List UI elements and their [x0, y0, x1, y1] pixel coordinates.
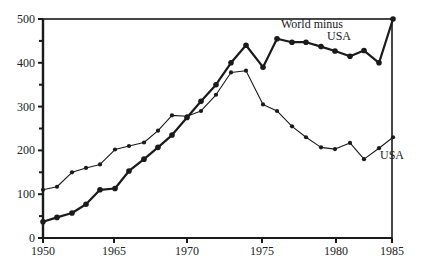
- usa-marker: [348, 141, 352, 145]
- usa-marker: [362, 157, 366, 161]
- line-chart: 0100200300400500195019651970197519801985…: [0, 0, 432, 267]
- world-minus-usa-marker: [361, 48, 367, 54]
- world-minus-usa-marker: [274, 36, 280, 42]
- usa-marker: [70, 170, 74, 174]
- world-minus-usa-marker: [318, 44, 324, 50]
- usa-marker: [170, 113, 174, 117]
- x-tick-label: 1985: [380, 244, 404, 258]
- x-tick-label: 1970: [175, 244, 199, 258]
- world-minus-usa-marker: [213, 82, 219, 88]
- usa-marker: [333, 147, 337, 151]
- usa-marker: [319, 145, 323, 149]
- y-tick-label: 300: [17, 100, 35, 114]
- world-minus-usa-marker: [112, 186, 118, 192]
- usa-label: USA: [380, 148, 404, 162]
- usa-marker: [391, 135, 395, 139]
- x-tick-label: 1965: [102, 244, 126, 258]
- world-minus-usa-marker: [376, 60, 382, 66]
- usa-marker: [113, 147, 117, 151]
- usa-marker: [84, 166, 88, 170]
- usa-marker: [290, 124, 294, 128]
- x-tick-label: 1950: [31, 244, 55, 258]
- y-tick-label: 100: [17, 187, 35, 201]
- world-minus-usa-marker: [141, 156, 147, 162]
- usa-line: [43, 71, 393, 190]
- y-tick-label: 500: [17, 12, 35, 26]
- y-tick-label: 0: [29, 231, 35, 245]
- world-minus-usa-marker: [40, 219, 46, 225]
- axes: 0100200300400500195019651970197519801985: [17, 12, 404, 258]
- usa-marker: [304, 135, 308, 139]
- world-minus-usa-line: [43, 19, 393, 222]
- y-tick-label: 200: [17, 143, 35, 157]
- usa-marker: [156, 129, 160, 133]
- usa-marker: [214, 93, 218, 97]
- world-minus-usa-marker: [347, 53, 353, 59]
- world-minus-usa-marker: [54, 215, 60, 221]
- world-minus-usa-marker: [83, 201, 89, 207]
- world-minus-usa-marker: [69, 210, 75, 216]
- world-minus-usa-marker: [332, 48, 338, 54]
- world-minus-usa-label-line2: USA: [327, 29, 351, 43]
- world-minus-usa-marker: [198, 99, 204, 105]
- world-minus-usa-marker: [260, 64, 266, 70]
- usa-marker: [98, 162, 102, 166]
- usa-marker: [185, 114, 189, 118]
- usa-marker: [127, 144, 131, 148]
- world-minus-usa-marker: [169, 132, 175, 138]
- world-minus-usa-marker: [243, 42, 249, 48]
- series-group: [40, 16, 396, 224]
- usa-marker: [229, 70, 233, 74]
- usa-marker: [261, 102, 265, 106]
- world-minus-usa-marker: [155, 145, 161, 151]
- x-tick-label: 1980: [324, 244, 348, 258]
- world-minus-usa-marker: [228, 60, 234, 66]
- world-minus-usa-marker: [126, 168, 132, 174]
- usa-marker: [275, 109, 279, 113]
- usa-marker: [55, 185, 59, 189]
- usa-marker: [41, 188, 45, 192]
- world-minus-usa-marker: [303, 39, 309, 45]
- world-minus-usa-marker: [390, 16, 396, 22]
- x-tick-label: 1975: [250, 244, 274, 258]
- world-minus-usa-marker: [97, 187, 103, 193]
- usa-marker: [142, 140, 146, 144]
- usa-marker: [244, 69, 248, 73]
- usa-marker: [199, 109, 203, 113]
- world-minus-usa-marker: [289, 39, 295, 45]
- y-tick-label: 400: [17, 56, 35, 70]
